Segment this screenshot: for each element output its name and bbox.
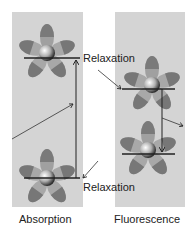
jablonski-diagram: Relaxation Relaxation Absorption Fluores… <box>0 0 196 230</box>
absorption-label: Absorption <box>19 213 72 225</box>
relaxation-arrow-bottom <box>83 161 98 178</box>
fluorescence-panel <box>115 12 185 207</box>
fluorescence-label: Fluorescence <box>114 213 180 225</box>
relaxation-label-top: Relaxation <box>83 52 135 64</box>
relaxation-label-bottom: Relaxation <box>83 181 135 193</box>
